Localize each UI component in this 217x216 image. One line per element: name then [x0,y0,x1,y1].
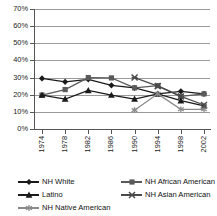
legend-item-nh-native-american[interactable]: NH Native American [18,204,110,212]
legend-label: NH Asian American [145,191,210,199]
data-point-square [63,87,68,92]
data-point-square [86,75,91,80]
chart-figure: 0%10%20%30%40%50%60%70% 1974197819821986… [0,0,217,216]
legend-label: Latino [42,191,63,199]
legend-swatch-square-icon [121,181,142,182]
data-point-diamond [108,82,114,88]
data-point-triangle [25,192,32,198]
legend-swatch-x-icon [121,194,142,195]
data-point-diamond [62,79,68,85]
data-point-x [132,75,138,81]
legend-label: NH African American [145,178,215,186]
legend-swatch-asterisk-icon [18,207,39,208]
data-point-square [201,91,206,96]
legend-item-nh-african-american[interactable]: NH African American [121,178,215,186]
chart-legend: NH WhiteNH African AmericanLatinoNH Asia… [18,178,217,216]
legend-item-nh-asian-american[interactable]: NH Asian American [121,191,210,199]
legend-item-latino[interactable]: Latino [18,191,63,199]
legend-swatch-triangle-icon [18,194,39,195]
data-point-diamond [25,179,31,185]
data-point-square [129,179,134,184]
data-point-square [109,75,114,80]
data-point-diamond [39,75,45,81]
data-point-square [132,85,137,90]
legend-swatch-diamond-icon [18,181,39,182]
legend-label: NH Native American [42,204,110,212]
legend-item-nh-white[interactable]: NH White [18,178,75,186]
legend-label: NH White [42,178,75,186]
series-nh-white [39,75,207,97]
data-point-x [129,192,135,198]
data-point-asterisk [26,205,32,211]
series-nh-asian-american [132,75,207,108]
data-point-triangle [85,87,92,93]
